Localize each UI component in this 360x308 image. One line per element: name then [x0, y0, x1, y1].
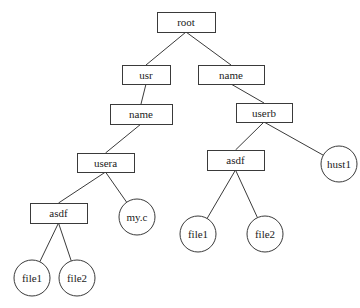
- directory-node-usr: usr: [123, 66, 171, 85]
- file-node-file2_l: file2: [59, 260, 95, 296]
- node-label: file2: [67, 272, 87, 284]
- directory-node-asdf_r: asdf: [208, 151, 265, 171]
- tree-diagram: rootusrnamenameuserbuseraasdfhust1asdfmy…: [0, 0, 360, 308]
- directory-node-userb: userb: [237, 104, 293, 123]
- node-label: asdf: [226, 154, 245, 166]
- edge-name_r-userb: [231, 84, 264, 103]
- file-node-hust1: hust1: [321, 146, 357, 182]
- node-label: userb: [252, 107, 276, 119]
- edge-name_l-usera: [106, 124, 142, 153]
- edge-asdf_r-file1_r: [207, 170, 235, 218]
- edge-root-name_r: [186, 32, 231, 65]
- node-label: usr: [139, 69, 153, 81]
- directory-node-name_l: name: [111, 105, 173, 125]
- directory-node-usera: usera: [78, 154, 135, 173]
- directory-node-asdf_l: asdf: [31, 204, 88, 224]
- file-node-myc: my.c: [119, 199, 155, 235]
- node-label: file2: [255, 228, 275, 240]
- edge-usera-asdf_l: [59, 172, 106, 203]
- edge-usera-myc: [106, 172, 127, 202]
- nodes-layer: rootusrnamenameuserbuseraasdfhust1asdfmy…: [14, 13, 357, 297]
- node-label: file1: [188, 228, 208, 240]
- edge-asdf_r-file2_r: [236, 170, 258, 218]
- node-label: name: [219, 69, 243, 81]
- directory-node-name_r: name: [199, 66, 265, 85]
- edge-userb-hust1: [264, 122, 323, 155]
- node-label: my.c: [127, 211, 148, 223]
- file-node-file2_r: file2: [247, 216, 283, 252]
- node-label: hust1: [327, 158, 351, 170]
- node-label: asdf: [49, 207, 68, 219]
- node-label: file1: [22, 272, 42, 284]
- edge-asdf_l-file1_l: [40, 223, 59, 262]
- node-label: usera: [94, 157, 117, 169]
- edge-userb-asdf_r: [236, 122, 265, 150]
- directory-node-root: root: [158, 13, 216, 33]
- node-label: root: [177, 16, 195, 28]
- edge-usr-name_l: [141, 84, 146, 104]
- file-node-file1_l: file1: [14, 260, 50, 296]
- edge-asdf_l-file2_l: [59, 223, 72, 261]
- edge-root-usr: [146, 32, 186, 65]
- node-label: name: [129, 108, 153, 120]
- file-node-file1_r: file1: [180, 216, 216, 252]
